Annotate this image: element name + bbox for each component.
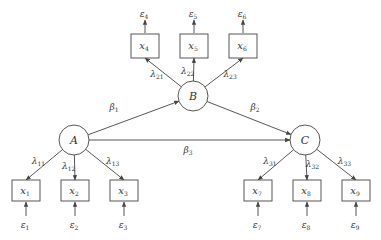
error-label-x4-subscript: 4: [145, 13, 149, 20]
error-label-x7-subscript: 7: [258, 224, 262, 231]
error-label-x7: ε7: [253, 220, 262, 231]
loading-label-x8-base: λ: [305, 159, 312, 169]
loading-label-x2: λ12: [61, 161, 76, 172]
loading-label-x1: λ11: [31, 156, 45, 167]
loading-label-x4: λ21: [149, 69, 163, 80]
loading-label-x3-base: λ: [105, 156, 112, 166]
error-label-x4: ε4: [140, 9, 149, 20]
error-label-x2: ε2: [70, 220, 79, 231]
loading-label-x6-subscript: 23: [229, 73, 237, 80]
loading-label-x6-base: λ: [222, 69, 229, 79]
nodes-layer: [12, 34, 370, 201]
loading-label-x9: λ33: [337, 156, 352, 167]
error-label-x6-subscript: 6: [243, 13, 247, 20]
loading-label-x4-base: λ: [149, 69, 156, 79]
path-label-A-B: β1: [108, 102, 118, 113]
path-label-A-C: β3: [182, 145, 192, 156]
loading-label-x9-subscript: 33: [343, 160, 351, 167]
loading-label-x6: λ23: [222, 69, 237, 80]
observed-label-x6-subscript: 6: [243, 45, 247, 52]
error-label-x3: ε3: [119, 220, 128, 231]
loading-label-x7-base: λ: [262, 156, 269, 166]
latent-label-A: A: [69, 134, 78, 147]
error-label-x5: ε5: [189, 9, 198, 20]
path-arrow-B-C: [207, 101, 291, 134]
loading-label-x5-base: λ: [180, 66, 187, 76]
loading-label-x8: λ32: [305, 159, 320, 170]
observed-label-x3-subscript: 3: [124, 190, 128, 197]
observed-label-x9-subscript: 9: [356, 190, 360, 197]
observed-label-x8-subscript: 8: [307, 190, 311, 197]
error-label-x9: ε9: [351, 220, 360, 231]
path-label-B-C: β2: [249, 102, 259, 113]
loading-label-x7: λ31: [262, 156, 276, 167]
observed-label-x1-subscript: 1: [26, 190, 30, 197]
loading-label-x3: λ13: [105, 156, 120, 167]
path-label-B-C-subscript: 2: [256, 106, 260, 113]
error-label-x9-subscript: 9: [356, 224, 360, 231]
path-label-A-B-subscript: 1: [115, 106, 119, 113]
loading-label-x7-subscript: 31: [269, 160, 277, 167]
loading-label-x5: λ22: [180, 66, 195, 77]
error-label-x1: ε1: [21, 220, 30, 231]
loading-label-x2-subscript: 12: [68, 165, 76, 172]
error-label-x6: ε6: [238, 9, 247, 20]
error-label-x3-subscript: 3: [124, 224, 128, 231]
observed-label-x7-subscript: 7: [258, 190, 262, 197]
latent-label-B: B: [188, 90, 197, 103]
error-label-x8-subscript: 8: [307, 224, 311, 231]
loading-label-x4-subscript: 21: [156, 73, 164, 80]
observed-label-x2-subscript: 2: [75, 190, 79, 197]
loading-label-x3-subscript: 13: [112, 160, 120, 167]
path-arrow-A-B: [88, 101, 179, 135]
loading-label-x9-base: λ: [337, 156, 344, 166]
path-label-A-C-subscript: 3: [189, 149, 193, 156]
loading-label-x8-subscript: 32: [311, 163, 319, 170]
error-label-x8: ε8: [302, 220, 311, 231]
latent-label-C: C: [301, 134, 310, 147]
sem-diagram: ABCx1ε1x2ε2x3ε3x4ε4x5ε5x6ε6x7ε7x8ε8x9ε9λ…: [0, 0, 381, 240]
error-label-x2-subscript: 2: [75, 224, 79, 231]
loading-label-x5-subscript: 22: [187, 70, 195, 77]
loading-label-x2-base: λ: [61, 161, 68, 171]
observed-label-x4-subscript: 4: [145, 45, 149, 52]
loading-label-x1-base: λ: [31, 156, 38, 166]
observed-label-x5-subscript: 5: [194, 45, 198, 52]
loading-label-x1-subscript: 11: [37, 160, 45, 167]
error-label-x5-subscript: 5: [194, 13, 198, 20]
error-label-x1-subscript: 1: [26, 224, 30, 231]
